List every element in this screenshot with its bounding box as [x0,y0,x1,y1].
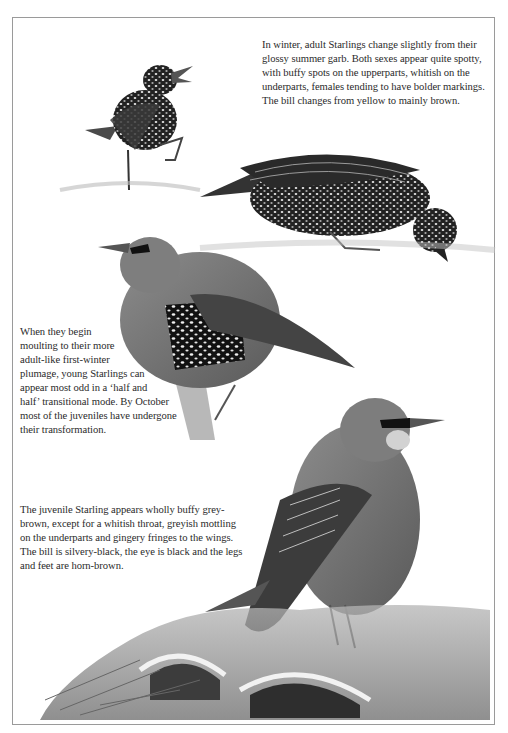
caption-first-winter: When they begin moulting to their more a… [20,325,190,437]
roof-tiles-nest [40,605,490,720]
winter-starling-feeding [200,154,495,262]
caption-winter-adult: In winter, adult Starlings change slight… [262,38,502,108]
winter-starling-singing [60,65,200,190]
caption-juvenile: The juvenile Starling appears wholly buf… [20,503,270,573]
